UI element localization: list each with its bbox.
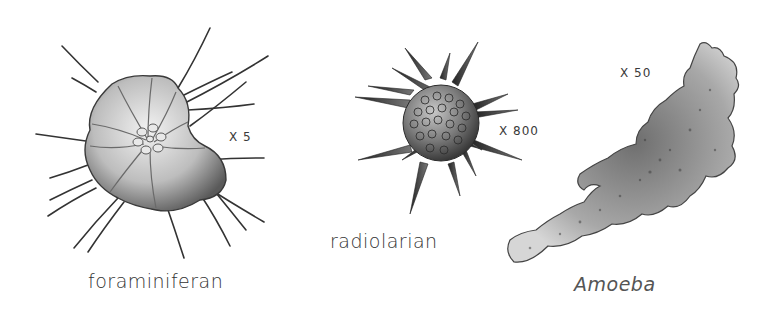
radiolarian-magnification: X 800	[499, 124, 539, 138]
protozoa-illustration: foraminiferan X 5 radiolarian X 800 Amoe…	[0, 0, 778, 316]
illustration-canvas	[0, 0, 778, 316]
amoeba-label: Amoeba	[574, 273, 656, 295]
radiolarian-label: radiolarian	[330, 230, 438, 252]
foraminiferan-magnification: X 5	[229, 130, 252, 144]
radiolarian-drawing	[355, 42, 522, 214]
foraminiferan-shell	[85, 76, 226, 211]
foraminiferan-label: foraminiferan	[88, 270, 223, 292]
amoeba-magnification: X 50	[620, 66, 651, 80]
